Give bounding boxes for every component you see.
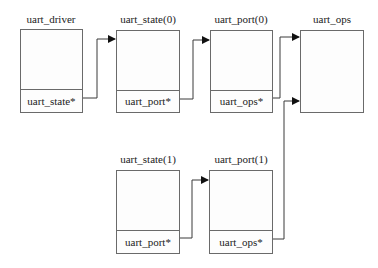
node-title-uart-ops: uart_ops: [296, 13, 368, 25]
arrow-port1-to-ops: [272, 101, 299, 239]
node-uart-port1: uart_ops*: [209, 170, 273, 254]
arrow-state0-to-port0: [179, 40, 209, 99]
node-title-uart-driver: uart_driver: [14, 13, 88, 25]
arrow-driver-to-state0: [82, 39, 115, 98]
node-uart-port0: uart_ops*: [210, 30, 273, 113]
node-title-uart-port1: uart_port(1): [202, 153, 280, 165]
field-uart-port-ptr: uart_port*: [117, 230, 179, 253]
field-uart-ops-ptr: uart_ops*: [211, 90, 272, 112]
node-title-uart-state1: uart_state(1): [108, 153, 188, 165]
arrow-port0-to-ops: [272, 37, 299, 98]
field-uart-port-ptr: uart_port*: [117, 90, 179, 112]
node-uart-driver: uart_state*: [20, 29, 83, 113]
arrow-state1-to-port1: [179, 180, 208, 238]
node-title-uart-port0: uart_port(0): [202, 13, 280, 25]
node-title-uart-state0: uart_state(0): [108, 13, 188, 25]
node-uart-state0: uart_port*: [116, 30, 180, 113]
field-uart-ops-ptr: uart_ops*: [210, 230, 272, 253]
field-uart-state-ptr: uart_state*: [21, 89, 82, 112]
node-uart-state1: uart_port*: [116, 170, 180, 254]
node-uart-ops: [300, 30, 364, 113]
